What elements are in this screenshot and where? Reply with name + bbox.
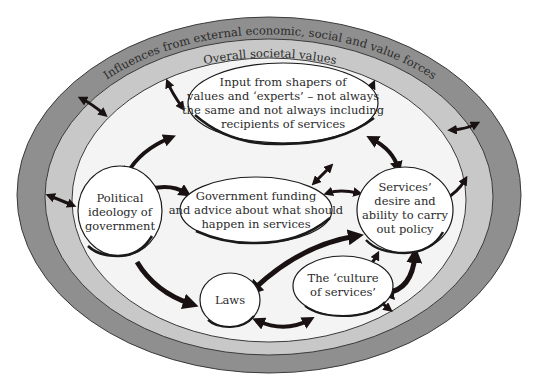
services-line-4: out policy [376,222,434,236]
funding-line-2: and advice about what should [169,203,344,217]
influence-diagram: Influences from external economic, socia… [0,0,538,388]
ideology-line-3: government [85,219,156,233]
node-services: Services’ desire and ability to carry ou… [357,167,453,253]
laws-label: Laws [215,293,245,307]
node-ideology: Political ideology of government [78,166,162,256]
services-line-1: Services’ [378,180,431,194]
funding-line-3: happen in services [201,217,310,231]
ideology-line-2: ideology of [88,205,153,219]
ideology-line-1: Political [97,191,144,205]
shapers-line-4: recipients of services [221,117,345,131]
shapers-line-1: Input from shapers of [220,75,348,89]
services-line-3: ability to carry [362,208,449,222]
shapers-line-3: the same and not always including [182,103,385,117]
shapers-line-2: values and ‘experts’ – not always [186,89,379,103]
node-laws: Laws [200,273,260,327]
culture-line-1: The ‘culture [307,271,378,285]
services-line-2: desire and [374,194,436,208]
node-culture: The ‘culture of services’ [293,256,393,316]
culture-line-2: of services’ [310,285,376,299]
funding-line-1: Government funding [196,189,317,203]
